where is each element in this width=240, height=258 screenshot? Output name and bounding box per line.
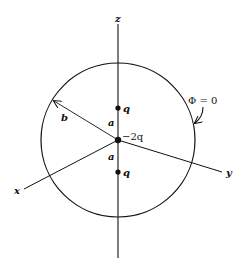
- distance-label-upper: a: [108, 117, 114, 128]
- charge-label-bottom: q: [123, 167, 130, 178]
- charge-dot-center: [115, 137, 121, 143]
- potential-label: Φ = 0: [188, 95, 217, 106]
- y-axis: [118, 140, 222, 172]
- charge-label-top: q: [123, 103, 130, 114]
- linear-quadrupole-in-grounded-sphere-diagram: z x y b Φ = 0 q −2q q a a: [0, 0, 240, 258]
- z-axis-label: z: [114, 13, 121, 24]
- distance-label-lower: a: [108, 151, 114, 162]
- charge-dot-bottom: [115, 169, 120, 174]
- radius-label: b: [61, 112, 68, 123]
- charge-label-center: −2q: [122, 131, 144, 142]
- potential-pointer-arrow: [195, 107, 203, 123]
- y-axis-label: y: [225, 167, 233, 178]
- x-axis: [24, 140, 118, 189]
- charge-dot-top: [115, 105, 120, 110]
- x-axis-label: x: [13, 185, 21, 196]
